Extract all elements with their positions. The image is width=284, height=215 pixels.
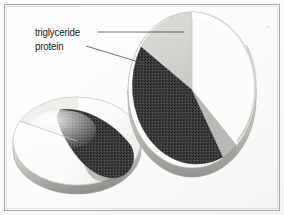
label-triglyceride: triglyceride — [35, 27, 80, 38]
small-pie-highlight — [28, 110, 96, 150]
label-protein: protein — [35, 41, 64, 52]
large-pie-chart — [128, 12, 256, 177]
scan-speck — [267, 26, 269, 28]
figure-panel: triglyceride protein — [0, 0, 284, 215]
small-pie-chart — [13, 97, 141, 194]
